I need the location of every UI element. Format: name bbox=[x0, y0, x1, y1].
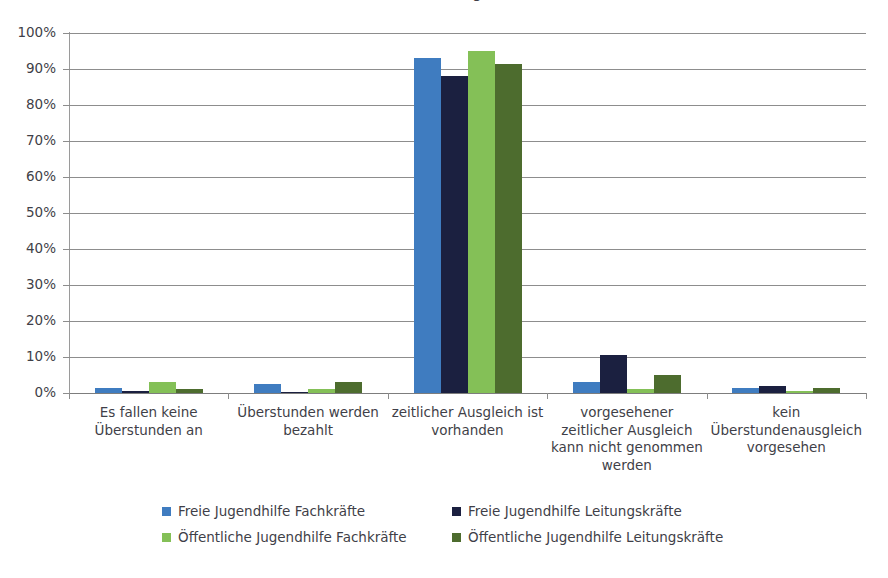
x-axis-label-line: kein bbox=[703, 404, 870, 422]
legend-item[interactable]: Öffentliche Jugendhilfe Fachkräfte bbox=[162, 529, 452, 545]
y-tick-mark bbox=[63, 213, 69, 214]
legend-label: Freie Jugendhilfe Leitungskräfte bbox=[468, 503, 682, 519]
y-axis-label: 0% bbox=[0, 386, 56, 400]
y-axis-label: 40% bbox=[0, 242, 56, 256]
x-axis-label-line: vorgesehener bbox=[543, 404, 710, 422]
gridline bbox=[69, 393, 866, 394]
x-axis-label-line: Überstunden werden bbox=[224, 404, 391, 422]
bar bbox=[759, 386, 786, 393]
chart-legend: Freie Jugendhilfe FachkräfteFreie Jugend… bbox=[162, 498, 762, 550]
x-axis-label-line: Überstundenausgleich bbox=[703, 422, 870, 440]
x-tick-mark bbox=[388, 393, 389, 399]
legend-item[interactable]: Öffentliche Jugendhilfe Leitungskräfte bbox=[452, 529, 752, 545]
x-axis-label-line: Überstunden an bbox=[65, 422, 232, 440]
chart-title-remnant: Abbildung bbox=[0, 0, 888, 12]
x-tick-mark bbox=[866, 393, 867, 399]
bar bbox=[600, 355, 627, 393]
bar bbox=[627, 389, 654, 393]
y-tick-mark bbox=[63, 177, 69, 178]
x-tick-mark bbox=[69, 393, 70, 399]
plot-area bbox=[69, 33, 866, 393]
x-axis-label-line: vorhanden bbox=[384, 422, 551, 440]
x-axis-label: Überstunden werdenbezahlt bbox=[224, 404, 391, 439]
x-axis-label: keinÜberstundenausgleichvorgesehen bbox=[703, 404, 870, 457]
bar bbox=[441, 76, 468, 393]
y-axis-label: 90% bbox=[0, 62, 56, 76]
x-axis-label-line: Es fallen keine bbox=[65, 404, 232, 422]
legend-label: Freie Jugendhilfe Fachkräfte bbox=[178, 503, 365, 519]
bar bbox=[573, 382, 600, 393]
y-axis-label: 30% bbox=[0, 278, 56, 292]
bar bbox=[786, 391, 813, 393]
bar bbox=[281, 392, 308, 393]
legend-item[interactable]: Freie Jugendhilfe Fachkräfte bbox=[162, 503, 452, 519]
bar bbox=[308, 389, 335, 393]
x-tick-mark bbox=[228, 393, 229, 399]
x-tick-mark bbox=[707, 393, 708, 399]
y-tick-mark bbox=[63, 357, 69, 358]
x-axis-label: zeitlicher Ausgleich istvorhanden bbox=[384, 404, 551, 439]
y-axis-label: 60% bbox=[0, 170, 56, 184]
bar bbox=[468, 51, 495, 393]
bar bbox=[813, 388, 840, 393]
y-axis-label: 70% bbox=[0, 134, 56, 148]
y-axis-label: 80% bbox=[0, 98, 56, 112]
x-axis-label-line: kann nicht genommen bbox=[543, 439, 710, 457]
bar bbox=[414, 58, 441, 393]
bar bbox=[495, 64, 522, 393]
legend-swatch-icon bbox=[162, 507, 171, 516]
bar bbox=[95, 388, 122, 393]
x-tick-mark bbox=[547, 393, 548, 399]
bar bbox=[122, 391, 149, 393]
x-axis-label-line: werden bbox=[543, 457, 710, 475]
y-tick-mark bbox=[63, 33, 69, 34]
y-tick-mark bbox=[63, 285, 69, 286]
legend-swatch-icon bbox=[452, 533, 461, 542]
bar-chart: Abbildung Freie Jugendhilfe FachkräfteFr… bbox=[0, 0, 888, 578]
legend-label: Öffentliche Jugendhilfe Fachkräfte bbox=[178, 529, 407, 545]
gridline bbox=[69, 33, 866, 34]
y-axis-label: 10% bbox=[0, 350, 56, 364]
legend-item[interactable]: Freie Jugendhilfe Leitungskräfte bbox=[452, 503, 752, 519]
y-tick-mark bbox=[63, 69, 69, 70]
x-axis-label-line: bezahlt bbox=[224, 422, 391, 440]
x-axis-label-line: zeitlicher Ausgleich ist bbox=[384, 404, 551, 422]
legend-swatch-icon bbox=[162, 533, 171, 542]
y-axis-label: 100% bbox=[0, 26, 56, 40]
legend-label: Öffentliche Jugendhilfe Leitungskräfte bbox=[468, 529, 723, 545]
bar bbox=[176, 389, 203, 393]
bar bbox=[335, 382, 362, 393]
y-tick-mark bbox=[63, 141, 69, 142]
x-axis-label: vorgesehenerzeitlicher Ausgleichkann nic… bbox=[543, 404, 710, 474]
chart-title-text: Abbildung bbox=[0, 0, 888, 2]
bar bbox=[149, 382, 176, 393]
bar bbox=[732, 388, 759, 393]
y-tick-mark bbox=[63, 321, 69, 322]
legend-swatch-icon bbox=[452, 507, 461, 516]
x-axis-label: Es fallen keineÜberstunden an bbox=[65, 404, 232, 439]
bar bbox=[254, 384, 281, 393]
x-axis-label-line: zeitlicher Ausgleich bbox=[543, 422, 710, 440]
y-axis-label: 50% bbox=[0, 206, 56, 220]
y-tick-mark bbox=[63, 249, 69, 250]
x-axis-label-line: vorgesehen bbox=[703, 439, 870, 457]
y-tick-mark bbox=[63, 105, 69, 106]
y-axis-label: 20% bbox=[0, 314, 56, 328]
bar bbox=[654, 375, 681, 393]
